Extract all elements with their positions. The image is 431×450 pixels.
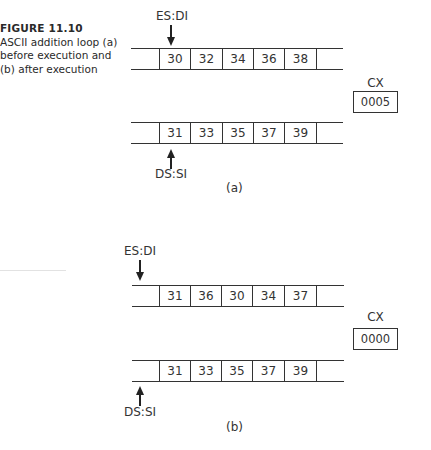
memory-strip-source: 31 33 35 37 39	[131, 122, 343, 144]
memory-cell: 37	[252, 361, 284, 381]
memory-cell: 31	[159, 361, 190, 381]
memory-cell: 30	[159, 49, 190, 69]
panel-b-label: (b)	[226, 420, 243, 434]
memory-cell-empty	[316, 49, 343, 69]
memory-cell: 39	[284, 361, 316, 381]
memory-cell: 38	[284, 49, 316, 69]
memory-cell-empty	[316, 361, 344, 381]
memory-cell: 32	[190, 49, 222, 69]
memory-cell: 33	[190, 123, 222, 143]
divider-rule	[0, 270, 66, 271]
pointer-label-es-di: ES:DI	[124, 244, 156, 258]
memory-cell: 33	[190, 361, 221, 381]
memory-cell-empty	[316, 286, 344, 306]
memory-cell: 31	[159, 286, 190, 306]
memory-cell: 37	[253, 123, 284, 143]
memory-strip-source: 31 33 35 37 39	[132, 360, 344, 382]
pointer-label-es-di: ES:DI	[156, 9, 188, 23]
memory-cell-empty	[316, 123, 343, 143]
memory-cell: 37	[284, 286, 316, 306]
memory-cell: 36	[253, 49, 284, 69]
memory-cell: 34	[252, 286, 284, 306]
figure-description: ASCII addition loop (a) before execution…	[0, 36, 125, 77]
pointer-label-ds-si: DS:SI	[124, 405, 156, 419]
register-label-cx: CX	[353, 310, 398, 324]
panel-a-label: (a)	[226, 181, 243, 195]
figure-caption: FIGURE 11.10 ASCII addition loop (a) bef…	[0, 22, 125, 76]
memory-strip-destination: 30 32 34 36 38	[131, 48, 343, 70]
memory-cell: 39	[284, 123, 316, 143]
register-value-cx: 0005	[353, 91, 398, 113]
figure-number: FIGURE 11.10	[0, 22, 125, 36]
memory-cell: 30	[221, 286, 252, 306]
memory-cell: 36	[190, 286, 221, 306]
pointer-label-ds-si: DS:SI	[155, 167, 187, 181]
register-value-cx: 0000	[353, 328, 398, 350]
memory-cell: 35	[221, 361, 252, 381]
memory-strip-destination: 31 36 30 34 37	[132, 285, 344, 307]
memory-cell: 31	[159, 123, 190, 143]
memory-cell: 34	[222, 49, 253, 69]
memory-cell: 35	[222, 123, 253, 143]
register-label-cx: CX	[353, 76, 398, 90]
